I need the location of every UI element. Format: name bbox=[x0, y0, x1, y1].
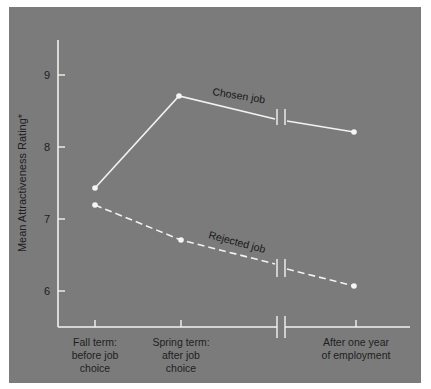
series-chosen-job: Chosen job bbox=[92, 85, 357, 191]
y-tick-label: 7 bbox=[44, 213, 50, 225]
y-tick-label: 6 bbox=[44, 285, 50, 297]
x-label-line: Spring term: bbox=[152, 336, 209, 348]
x-ticks bbox=[95, 320, 356, 327]
data-point bbox=[351, 129, 357, 135]
x-category-labels: Fall term: before job choice Spring term… bbox=[72, 336, 391, 374]
x-label-line: before job bbox=[72, 349, 119, 361]
data-point bbox=[92, 185, 98, 191]
y-ticks: 9 8 7 6 bbox=[44, 69, 65, 297]
x-label-line: choice bbox=[80, 362, 111, 374]
data-point bbox=[351, 283, 357, 289]
x-label-line: choice bbox=[166, 362, 197, 374]
y-axis-title: Mean Attractiveness Rating* bbox=[16, 113, 28, 252]
x-label-line: of employment bbox=[322, 349, 391, 361]
data-point bbox=[176, 93, 182, 99]
series-label-rejected: Rejected job bbox=[207, 228, 267, 255]
x-label-line: Fall term: bbox=[73, 336, 117, 348]
x-label-line: After one year bbox=[323, 336, 389, 348]
y-tick-label: 9 bbox=[44, 69, 50, 81]
y-tick-label: 8 bbox=[44, 141, 50, 153]
series-rejected-job: Rejected job bbox=[92, 202, 357, 289]
data-point bbox=[92, 202, 98, 208]
x-label-line: after job bbox=[162, 349, 200, 361]
data-point bbox=[178, 237, 184, 243]
line-chart: 9 8 7 6 Mean Attractiveness Rating* Fall… bbox=[0, 0, 431, 389]
series-label-chosen: Chosen job bbox=[212, 85, 267, 105]
